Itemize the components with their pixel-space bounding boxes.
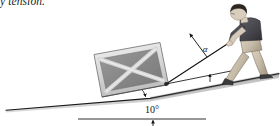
person-front-leg [251, 48, 268, 76]
rope-angle-label: α [203, 44, 208, 54]
physics-figure: y tension. [0, 0, 280, 126]
person-pulling [222, 3, 273, 85]
person-back-leg [226, 52, 249, 82]
horizontal-reference-line [78, 119, 206, 126]
figure-illustration: 10° [0, 0, 280, 126]
incline-angle-label: 10° [145, 104, 159, 115]
crate [94, 43, 169, 98]
